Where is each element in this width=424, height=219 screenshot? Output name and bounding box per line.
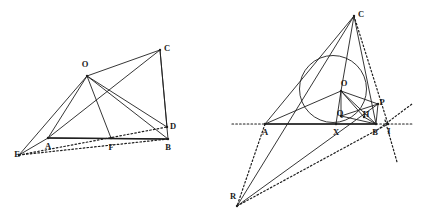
vertex-dot-A: [264, 123, 266, 125]
vertex-dot-B: [375, 123, 377, 125]
vertex-dot-F: [110, 137, 112, 139]
point-label-D: D: [170, 121, 176, 131]
point-label-F: F: [108, 142, 113, 152]
point-label-E: E: [14, 149, 20, 159]
point-label-B: B: [372, 127, 378, 137]
vertex-dot-D: [166, 126, 168, 128]
point-label-C: C: [358, 9, 364, 19]
geometry-figure-canvas: EAFBDCO AXBICOQPHR: [0, 0, 424, 219]
point-label-Q: Q: [337, 108, 344, 118]
vertex-dot-R: [236, 205, 238, 207]
vertex-dot-O: [340, 90, 342, 92]
point-label-A: A: [45, 141, 52, 151]
vertex-dot-B: [167, 138, 169, 140]
point-label-C: C: [164, 43, 170, 53]
vertex-dot-O: [86, 75, 88, 77]
point-label-X: X: [333, 127, 340, 137]
point-label-O: O: [341, 78, 348, 88]
vertex-dot-A: [47, 137, 49, 139]
point-label-B: B: [165, 142, 171, 152]
baseline-AB: [48, 138, 168, 139]
point-label-P: P: [379, 97, 384, 107]
point-label-H: H: [363, 109, 370, 119]
vertex-dot-C: [353, 15, 355, 17]
vertex-dot-C: [159, 49, 161, 51]
vertex-dot-X: [335, 123, 337, 125]
point-label-A: A: [262, 127, 269, 137]
point-label-R: R: [230, 191, 237, 201]
point-label-O: O: [82, 59, 89, 69]
vertex-dot-I: [387, 123, 389, 125]
